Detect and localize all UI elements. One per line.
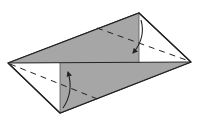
- origami-diagram: [0, 0, 199, 130]
